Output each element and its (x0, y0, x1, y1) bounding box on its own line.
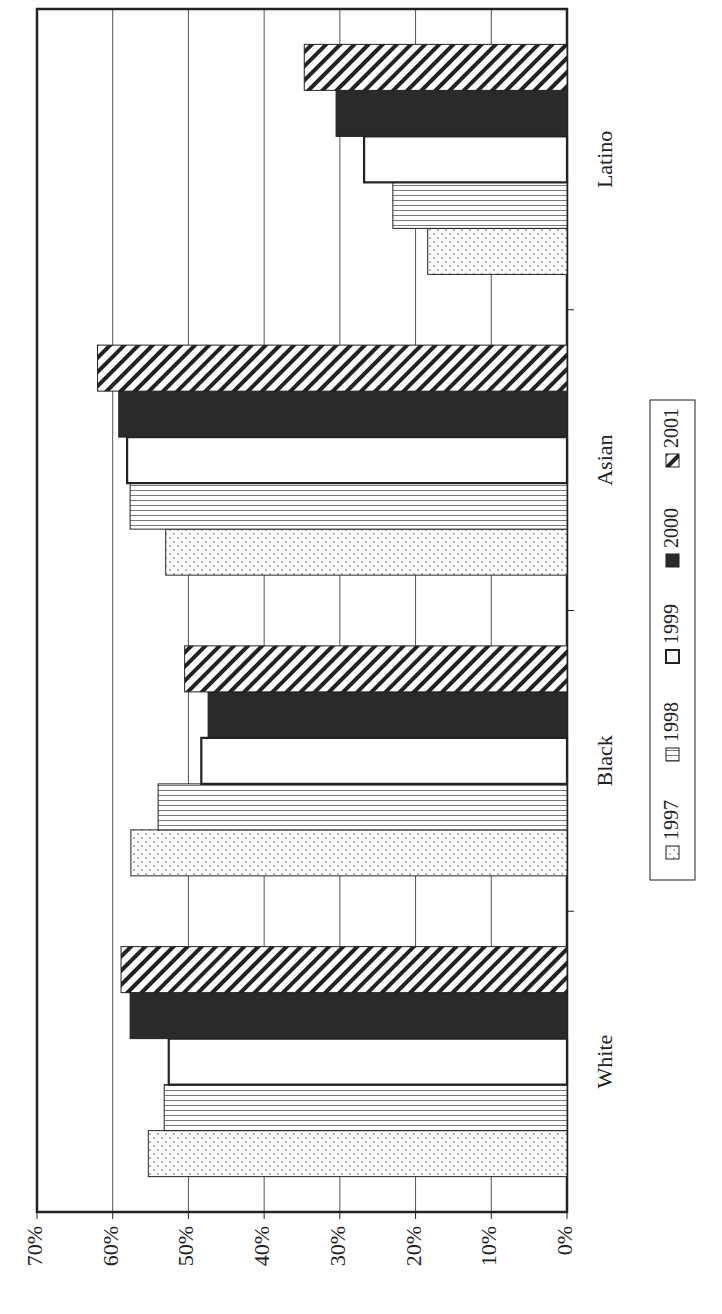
category-label: Black (592, 735, 617, 786)
bar-latino-1999 (364, 136, 567, 182)
bar-latino-1998 (393, 182, 567, 228)
bar-black-2000 (208, 692, 567, 738)
legend-label-1999: 1999 (660, 604, 682, 644)
bar-asian-1999 (127, 437, 567, 483)
legend-label-2001: 2001 (660, 408, 682, 448)
legend-swatch-1999 (666, 650, 679, 663)
value-tick-label: 20% (401, 1226, 426, 1266)
legend-swatch-1998 (666, 748, 679, 761)
bar-black-1997 (131, 830, 567, 876)
bar-latino-1997 (428, 228, 567, 274)
bar-asian-2001 (98, 345, 567, 391)
bar-chart: 0%10%20%30%40%50%60%70% WhiteBlackAsianL… (0, 0, 722, 1314)
category-label: Asian (592, 434, 617, 485)
value-axis: 0%10%20%30%40%50%60%70% (22, 1212, 577, 1266)
bar-latino-2001 (304, 44, 567, 90)
legend-label-1997: 1997 (660, 800, 682, 840)
value-tick-label: 10% (476, 1226, 501, 1266)
bar-white-1997 (148, 1131, 567, 1177)
bar-latino-2000 (336, 90, 567, 136)
bar-asian-1998 (130, 483, 567, 529)
bar-asian-1997 (166, 529, 567, 575)
legend-label-2000: 2000 (660, 508, 682, 548)
value-tick-label: 60% (98, 1226, 123, 1266)
bar-asian-2000 (119, 391, 567, 437)
legend: 19971998199920002001 (650, 400, 695, 880)
bar-black-1998 (158, 784, 567, 830)
value-tick-label: 40% (249, 1226, 274, 1266)
category-label: Latino (592, 131, 617, 188)
bar-white-1998 (164, 1085, 567, 1131)
legend-swatch-2001 (666, 454, 679, 467)
value-tick-label: 0% (552, 1226, 577, 1255)
plot-area (37, 9, 567, 1212)
value-tick-label: 70% (22, 1226, 47, 1266)
legend-swatch-1997 (666, 846, 679, 859)
category-axis: WhiteBlackAsianLatino (567, 131, 617, 1089)
bar-black-2001 (185, 646, 567, 692)
value-tick-label: 50% (173, 1226, 198, 1266)
bar-black-1999 (201, 738, 567, 784)
bar-white-2001 (121, 947, 567, 993)
legend-label-1998: 1998 (660, 702, 682, 742)
bar-white-1999 (169, 1039, 567, 1085)
category-label: White (592, 1035, 617, 1089)
legend-swatch-2000 (666, 554, 679, 567)
value-tick-label: 30% (325, 1226, 350, 1266)
bar-white-2000 (130, 993, 567, 1039)
